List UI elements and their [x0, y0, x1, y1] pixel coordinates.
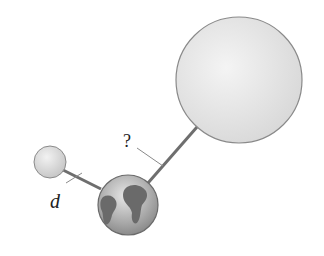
label-question: ?	[123, 131, 131, 151]
small-moon	[34, 146, 66, 178]
earth-globe	[98, 175, 158, 235]
large-body	[176, 17, 302, 143]
label-d: d	[50, 190, 61, 212]
connector-earth-large-body	[148, 127, 197, 183]
leader-question	[137, 148, 163, 166]
orbit-diagram: d ?	[0, 0, 324, 256]
connector-moon-earth	[63, 170, 101, 189]
